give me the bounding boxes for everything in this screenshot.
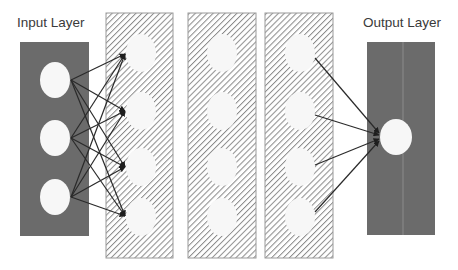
hidden-2-node-4 (207, 198, 237, 236)
hidden-3-node-1 (285, 34, 315, 72)
hidden-2-node-2 (207, 92, 237, 130)
output-node-1 (380, 119, 412, 155)
hidden-1-node-3 (126, 148, 156, 186)
input-node-1 (40, 62, 70, 98)
input-layer-label: Input Layer (17, 15, 85, 30)
hidden-layer-1 (106, 13, 173, 258)
hidden-1-node-4 (126, 198, 156, 236)
input-node-3 (40, 179, 70, 215)
input-layer (20, 42, 89, 236)
hidden-3-node-3 (285, 148, 315, 186)
hidden-2-node-1 (207, 34, 237, 72)
hidden-layer-2 (188, 13, 256, 258)
hidden-1-node-2 (126, 92, 156, 130)
hidden-3-node-2 (285, 92, 315, 130)
neural-network-diagram (0, 0, 458, 270)
output-layer (367, 42, 435, 235)
input-node-2 (40, 120, 70, 156)
output-layer-label: Output Layer (363, 15, 441, 30)
hidden-1-node-1 (126, 34, 156, 72)
hidden-3-node-4 (285, 198, 315, 236)
hidden-2-node-3 (207, 148, 237, 186)
hidden-layer-3 (265, 13, 333, 258)
